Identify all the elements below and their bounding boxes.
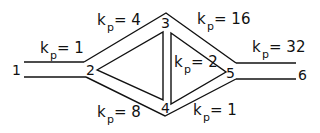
svg-text:p: p [203, 111, 210, 124]
svg-text:k: k [97, 11, 106, 29]
svg-text:k: k [193, 101, 202, 119]
pipe-network-diagram: 1 2 3 4 5 6 k p = 1 k p = 4 k p = 8 k p … [0, 0, 320, 133]
node-3-label: 3 [161, 15, 170, 31]
svg-text:k: k [97, 103, 106, 121]
svg-text:= 1: = 1 [57, 39, 84, 57]
pipe-1-2 [24, 62, 86, 77]
svg-text:p: p [184, 63, 191, 76]
svg-text:k: k [40, 39, 49, 57]
svg-text:k: k [197, 10, 206, 28]
svg-text:k: k [174, 53, 183, 71]
kp-label-1-2: k p = 1 [40, 39, 84, 62]
svg-text:= 1: = 1 [210, 101, 237, 119]
node-2-label: 2 [86, 62, 95, 78]
svg-text:p: p [262, 48, 269, 61]
node-5-label: 5 [226, 65, 235, 81]
svg-text:= 16: = 16 [214, 10, 250, 28]
kp-label-5-6: k p = 32 [252, 38, 305, 61]
kp-label-3-4: k p = 2 [174, 53, 218, 76]
inner-triangle-left [97, 32, 163, 100]
svg-text:p: p [207, 20, 214, 33]
svg-text:k: k [252, 38, 261, 56]
node-4-label: 4 [161, 100, 170, 116]
svg-text:= 4: = 4 [114, 11, 141, 29]
svg-text:p: p [107, 21, 114, 34]
kp-label-3-5: k p = 16 [197, 10, 250, 33]
kp-label-2-3: k p = 4 [97, 11, 141, 34]
pipe-5-6 [236, 63, 296, 79]
svg-text:p: p [50, 49, 57, 62]
svg-text:= 32: = 32 [269, 38, 305, 56]
node-6-label: 6 [298, 67, 307, 83]
kp-label-4-5: k p = 1 [193, 101, 237, 124]
svg-text:= 2: = 2 [191, 53, 218, 71]
node-1-label: 1 [12, 62, 21, 78]
svg-text:= 8: = 8 [114, 103, 141, 121]
svg-text:p: p [107, 113, 114, 126]
kp-label-2-4: k p = 8 [97, 103, 141, 126]
